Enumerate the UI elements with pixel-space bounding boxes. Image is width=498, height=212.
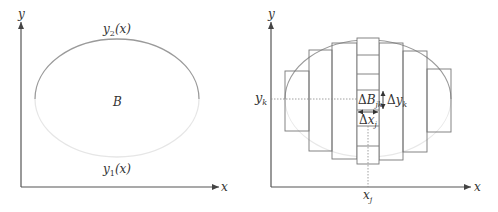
right-x-axis-label: x <box>474 180 481 194</box>
lower-curve-label: y1(x) <box>102 162 131 178</box>
right-panel: y x <box>254 7 481 204</box>
upper-curve-label: y2(x) <box>102 22 131 38</box>
upper-boundary-curve <box>35 39 199 99</box>
left-x-axis-label: x <box>221 180 228 194</box>
column-rect <box>332 43 357 159</box>
right-y-axis-label: y <box>267 7 275 21</box>
double-integral-diagram: y x y2(x) B y1(x) y x <box>0 0 498 212</box>
xj-label: xj <box>363 188 373 204</box>
left-y-axis-label: y <box>17 7 25 21</box>
column-rect <box>309 50 332 151</box>
left-panel: y x y2(x) B y1(x) <box>17 7 228 194</box>
column-rect <box>427 69 451 132</box>
yk-label: yk <box>254 90 267 107</box>
region-label: B <box>112 95 122 109</box>
column-rect <box>285 71 309 131</box>
delta-y-label: Δyk <box>387 93 407 109</box>
